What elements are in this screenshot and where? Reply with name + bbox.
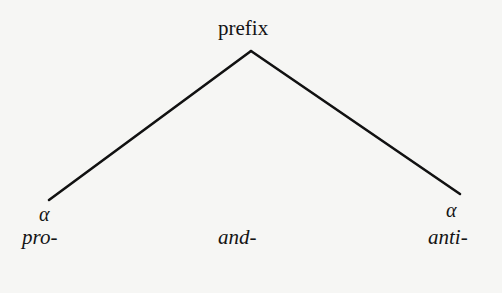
root-node-label: prefix — [218, 16, 268, 41]
leaf-pro: pro- — [22, 225, 57, 250]
edge-right — [251, 51, 460, 194]
right-branch-label: α — [446, 199, 457, 222]
edge-left — [49, 51, 251, 200]
leaf-anti: anti- — [428, 225, 468, 250]
left-branch-label: α — [39, 203, 50, 226]
leaf-and: and- — [218, 225, 257, 250]
